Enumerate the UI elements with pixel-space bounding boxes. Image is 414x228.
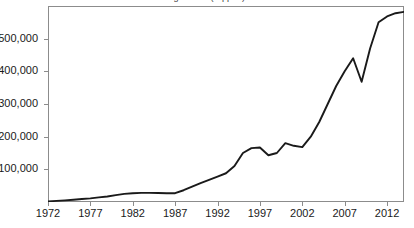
y-tick-label: 200,000	[0, 131, 38, 142]
x-tick-label: 2002	[290, 207, 314, 219]
x-tick-label: 1992	[205, 207, 229, 219]
x-tick-mark	[260, 202, 261, 206]
x-tick-label: 1977	[78, 207, 102, 219]
x-tick-label: 2012	[375, 207, 399, 219]
data-layer	[48, 6, 404, 202]
x-tick-mark	[133, 202, 134, 206]
x-tick-label: 2007	[332, 207, 356, 219]
x-tick-mark	[90, 202, 91, 206]
chart-figure: figure title (clipped) 100,000200,000300…	[0, 0, 414, 228]
y-tick-label: 100,000	[0, 163, 38, 174]
x-tick-mark	[387, 202, 388, 206]
x-tick-mark	[175, 202, 176, 206]
y-tick-label: 500,000	[0, 33, 38, 44]
x-tick-label: 1987	[163, 207, 187, 219]
y-tick-label: 400,000	[0, 65, 38, 76]
y-axis: 100,000200,000300,000400,000500,000	[0, 0, 46, 228]
x-axis: 197219771982198719921997200220072012	[0, 205, 414, 225]
clipped-title: figure title (clipped)	[0, 0, 414, 5]
line-series-path	[48, 12, 404, 201]
x-tick-mark	[345, 202, 346, 206]
x-tick-label: 1982	[121, 207, 145, 219]
x-tick-mark	[302, 202, 303, 206]
x-tick-label: 1972	[36, 207, 60, 219]
x-tick-mark	[48, 202, 49, 206]
x-tick-mark	[218, 202, 219, 206]
clipped-title-text: figure title (clipped)	[0, 0, 414, 2]
y-tick-label: 300,000	[0, 98, 38, 109]
line-series-svg	[48, 6, 404, 202]
x-tick-label: 1997	[248, 207, 272, 219]
